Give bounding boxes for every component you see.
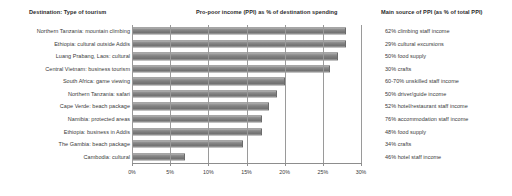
destination-label: Cape Verde: beach package: [60, 103, 130, 109]
destination-label: The Gambia: beach package: [59, 141, 130, 147]
chart-row: Ethiopia: cultural outside Addis29% cult…: [0, 38, 512, 51]
ppi-source-label: 76% accommodation staff income: [385, 116, 468, 122]
axis-tick: [208, 163, 209, 166]
chart-row: The Gambia: beach package34% crafts: [0, 138, 512, 151]
ppi-source-label: 62% climbing staff income: [385, 28, 450, 34]
ppi-source-label: 46% hotel staff income: [385, 154, 441, 160]
axis-tick-label: 5%: [166, 169, 174, 175]
bar: [132, 153, 185, 160]
axis-tick: [323, 163, 324, 166]
bar: [132, 115, 262, 122]
bar-cell: [132, 25, 361, 38]
axis-tick-label: 30%: [356, 169, 367, 175]
destination-label: Namibia: protected areas: [68, 116, 130, 122]
destination-label: Ethiopia: cultural outside Addis: [54, 41, 130, 47]
column-headers: Destination: Type of tourism Pro-poor in…: [0, 9, 512, 21]
bar: [132, 90, 277, 97]
axis-tick: [170, 163, 171, 166]
ppi-source-label: 29% cultural excursions: [385, 41, 444, 47]
bar: [132, 103, 269, 110]
header-destination: Destination: Type of tourism: [29, 9, 106, 15]
ppi-source-label: 60-70% unskilled staff income: [385, 78, 459, 84]
bar: [132, 128, 262, 135]
bar-cell: [132, 138, 361, 151]
destination-label: Luang Prabang, Laos: cultural: [56, 53, 130, 59]
bar-cell: [132, 50, 361, 63]
chart-row: South Africa: game viewing60-70% unskill…: [0, 75, 512, 88]
axis-tick: [361, 163, 362, 166]
bar: [132, 78, 285, 85]
ppi-source-label: 48% food supply: [385, 129, 426, 135]
axis-tick-label: 15%: [241, 169, 252, 175]
bar-cell: [132, 100, 361, 113]
bar-cell: [132, 113, 361, 126]
bar-cell: [132, 125, 361, 138]
axis-tick-label: 0%: [128, 169, 136, 175]
header-ppi-share: Pro-poor income (PPI) as % of destinatio…: [196, 9, 338, 15]
axis-tick: [285, 163, 286, 166]
bar-cell: [132, 63, 361, 76]
chart-figure: Destination: Type of tourism Pro-poor in…: [0, 0, 512, 196]
bar-cell: [132, 88, 361, 101]
chart-row: Ethiopia: business in Addis48% food supp…: [0, 125, 512, 138]
header-ppi-source: Main source of PPI (as % of total PPI): [381, 9, 483, 15]
axis-tick-label: 20%: [279, 169, 290, 175]
destination-label: Cambodia: cultural: [84, 154, 130, 160]
axis-tick-label: 10%: [203, 169, 214, 175]
bar-cell: [132, 75, 361, 88]
ppi-source-label: 50% driver/guide income: [385, 91, 446, 97]
bar: [132, 28, 346, 35]
axis-tick: [132, 163, 133, 166]
chart-row: Central Vietnam: business tourism30% cra…: [0, 63, 512, 76]
destination-label: Northern Tanzania: mountain climbing: [37, 28, 130, 34]
axis-tick-label: 25%: [318, 169, 329, 175]
ppi-source-label: 34% crafts: [385, 141, 411, 147]
chart-row: Northern Tanzania: mountain climbing62% …: [0, 25, 512, 38]
chart-row: Luang Prabang, Laos: cultural50% food su…: [0, 50, 512, 63]
destination-label: Northern Tanzania: safari: [68, 91, 130, 97]
bar-cell: [132, 38, 361, 51]
destination-label: South Africa: game viewing: [63, 78, 130, 84]
chart-row: Cape Verde: beach package52% hotel/resta…: [0, 100, 512, 113]
bar: [132, 40, 346, 47]
chart-row: Namibia: protected areas76% accommodatio…: [0, 113, 512, 126]
destination-label: Central Vietnam: business tourism: [45, 66, 130, 72]
axis-tick: [247, 163, 248, 166]
bar: [132, 140, 243, 147]
chart-row: Northern Tanzania: safari50% driver/guid…: [0, 88, 512, 101]
destination-label: Ethiopia: business in Addis: [64, 129, 130, 135]
ppi-source-label: 50% food supply: [385, 53, 426, 59]
chart-row: Cambodia: cultural46% hotel staff income: [0, 150, 512, 163]
bar: [132, 53, 338, 60]
chart-rows: Northern Tanzania: mountain climbing62% …: [0, 25, 512, 163]
bar-cell: [132, 150, 361, 163]
ppi-source-label: 30% crafts: [385, 66, 411, 72]
ppi-source-label: 52% hotel/restaurant staff income: [385, 103, 468, 109]
bar: [132, 65, 330, 72]
